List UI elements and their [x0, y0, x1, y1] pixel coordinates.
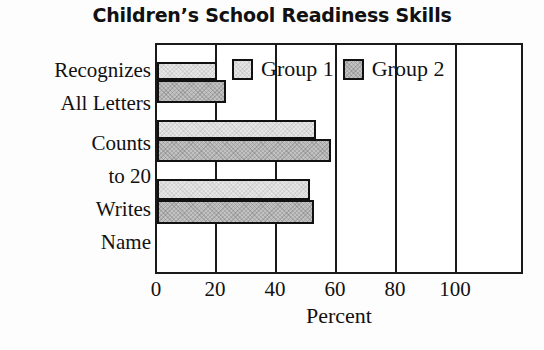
- chart-legend: Group 1 Group 2: [232, 58, 444, 80]
- xtick-label-40: 40: [265, 278, 286, 300]
- chart-figure: Children’s School Readiness Skills Group…: [0, 0, 544, 350]
- legend-label-group-1: Group 1: [261, 58, 334, 80]
- xtick-label-100: 100: [439, 278, 471, 300]
- bar-group2-counts-to-20: [157, 139, 331, 162]
- xtick-label-80: 80: [385, 278, 406, 300]
- bar-group1-counts-to-20: [157, 120, 316, 139]
- category-label-writes-line2: Name: [1, 231, 151, 254]
- bar-group2-writes-name: [157, 200, 314, 224]
- category-label-recognizes-line2: All Letters: [1, 92, 151, 115]
- legend-entry-group-2: Group 2: [343, 58, 445, 80]
- xtick-label-20: 20: [205, 278, 226, 300]
- bar-group2-recognizes-all-letters: [157, 80, 226, 103]
- category-axis-labels: Recognizes All Letters Counts to 20 Writ…: [0, 0, 151, 350]
- category-label-writes-line1: Writes: [1, 198, 151, 221]
- category-label-recognizes-line1: Recognizes: [1, 59, 151, 82]
- x-axis-title: Percent: [155, 303, 523, 329]
- bar-group1-recognizes-all-letters: [157, 62, 217, 80]
- legend-label-group-2: Group 2: [372, 58, 445, 80]
- legend-entry-group-1: Group 1: [232, 58, 334, 80]
- legend-swatch-group-1: [232, 59, 253, 80]
- legend-swatch-group-2: [343, 59, 364, 80]
- xtick-label-60: 60: [325, 278, 346, 300]
- gridline-100: [455, 45, 457, 272]
- bar-group1-writes-name: [157, 179, 310, 200]
- xtick-label-0: 0: [151, 278, 162, 300]
- category-label-counts-line2: to 20: [1, 165, 151, 188]
- category-label-counts-line1: Counts: [1, 132, 151, 155]
